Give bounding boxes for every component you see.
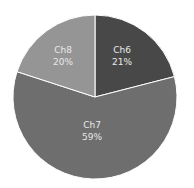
- slice-name: Ch8: [54, 45, 72, 55]
- slice-percent: 20%: [53, 57, 73, 67]
- pie-chart: Ch6 21% Ch7 59% Ch8 20%: [0, 0, 194, 188]
- slice-name: Ch6: [113, 45, 131, 55]
- slice-name: Ch7: [83, 120, 101, 130]
- slice-percent: 59%: [82, 132, 102, 142]
- slice-percent: 21%: [112, 57, 132, 67]
